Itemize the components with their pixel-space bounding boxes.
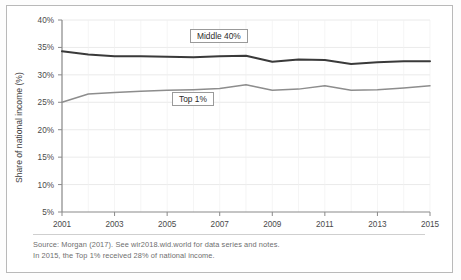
x-tick-label: 2011 bbox=[316, 220, 334, 229]
x-tick-label: 2015 bbox=[421, 220, 440, 229]
y-axis-title: Share of national income (%) bbox=[14, 72, 24, 183]
y-tick-label: 10% bbox=[38, 181, 54, 190]
series-label-middle-40: Middle 40% bbox=[190, 29, 248, 43]
y-tick-label: 35% bbox=[38, 43, 54, 52]
y-tick-label: 20% bbox=[38, 126, 54, 135]
figure-container: 5%10%15%20%25%30%35%40% 2001200320052007… bbox=[0, 0, 461, 280]
y-tick-label: 40% bbox=[38, 16, 54, 25]
y-tick-label: 30% bbox=[38, 71, 54, 80]
x-tick-label: 2005 bbox=[158, 220, 177, 229]
x-tick-label: 2009 bbox=[263, 220, 282, 229]
y-tick-label: 15% bbox=[38, 153, 54, 162]
x-tick-label: 2013 bbox=[368, 220, 387, 229]
gridlines bbox=[62, 20, 430, 212]
axis-ticks bbox=[58, 20, 430, 216]
series-label-top-1: Top 1% bbox=[172, 92, 214, 106]
plot-area: 5%10%15%20%25%30%35%40% 2001200320052007… bbox=[0, 0, 461, 280]
x-tick-labels: 20012003200520072009201120132015 bbox=[53, 220, 440, 229]
source-note-line-2: In 2015, the Top 1% received 28% of nati… bbox=[33, 251, 215, 260]
x-tick-label: 2007 bbox=[211, 220, 230, 229]
y-tick-label: 25% bbox=[38, 98, 54, 107]
note-separator bbox=[33, 234, 425, 235]
y-tick-label: 5% bbox=[42, 208, 54, 217]
source-note-line-1: Source: Morgan (2017). See wir2018.wid.w… bbox=[33, 240, 280, 249]
x-tick-label: 2001 bbox=[53, 220, 72, 229]
x-tick-label: 2003 bbox=[105, 220, 124, 229]
y-tick-labels: 5%10%15%20%25%30%35%40% bbox=[38, 16, 54, 217]
